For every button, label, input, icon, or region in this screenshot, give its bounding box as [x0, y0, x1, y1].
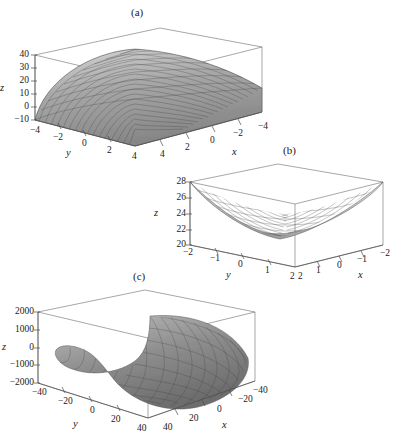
panel-b-xtick-3: −1 — [357, 255, 367, 265]
panel-a-axis-z: z — [0, 83, 4, 94]
panel-c-xtick-3: −20 — [238, 395, 253, 405]
panel-c-xtick-1: 20 — [189, 414, 199, 424]
panel-c-ztick-3: −1000 — [0, 360, 34, 370]
panel-b-xtick-0: 2 — [298, 272, 303, 282]
panel-a-ytick-2: 0 — [82, 139, 87, 149]
panel-c-ytick-1: −20 — [58, 397, 73, 407]
panel-a-ztick-4: 0 — [5, 102, 29, 112]
panel-c-xtick-4: −40 — [253, 386, 268, 396]
panel-b-xtick-4: −2 — [380, 249, 390, 259]
panel-b-ytick-1: −1 — [210, 254, 220, 264]
figure-3d-surface-plots: (a) — [0, 0, 402, 448]
panel-b-ztick-3: 22 — [164, 225, 186, 235]
panel-c-xtick-0: 40 — [163, 423, 173, 433]
panel-c-axis-y: y — [73, 419, 78, 430]
panel-c-ytick-4: 40 — [137, 424, 147, 434]
panel-c-ytick-2: 0 — [90, 406, 95, 416]
panel-a-ztick-5: −10 — [2, 115, 29, 125]
panel-c-axis-x: x — [222, 420, 227, 431]
panel-b-ztick-2: 24 — [164, 209, 186, 219]
panel-c-ztick-4: −2000 — [0, 378, 34, 388]
panel-c-axis-z: z — [2, 342, 6, 353]
panel-b-ytick-0: −2 — [183, 248, 193, 258]
panel-b-xtick-1: 1 — [316, 266, 321, 276]
panel-c-xtick-2: 0 — [217, 405, 222, 415]
panel-c-ztick-0: 2000 — [0, 307, 34, 317]
panel-a-ztick-3: 10 — [5, 89, 29, 99]
panel-c-ytick-0: −40 — [32, 388, 47, 398]
panel-a-axis-y: y — [66, 148, 71, 159]
panel-a-ytick-3: 2 — [107, 146, 112, 156]
panel-a-ztick-2: 20 — [5, 76, 29, 86]
panel-b-xtick-2: 0 — [337, 261, 342, 271]
panel-c: (c) — [0, 268, 285, 448]
panel-a-ztick-1: 30 — [5, 63, 29, 73]
panel-c-ztick-1: 1000 — [0, 325, 34, 335]
panel-c-ytick-3: 20 — [111, 415, 121, 425]
panel-a-ytick-4: 4 — [132, 152, 137, 162]
panel-a-ytick-1: −2 — [53, 133, 63, 143]
panel-b-axis-x: x — [358, 270, 363, 281]
panel-a-xtick-0: 4 — [160, 150, 165, 160]
panel-b-ztick-0: 28 — [164, 177, 186, 187]
panel-a-ztick-0: 40 — [5, 50, 29, 60]
panel-c-graphic — [0, 268, 285, 448]
panel-b-ztick-1: 26 — [164, 193, 186, 203]
panel-b-axis-z: z — [154, 208, 158, 219]
panel-a-ytick-0: −4 — [30, 126, 40, 136]
panel-a-xtick-4: −4 — [258, 122, 268, 132]
panel-b-ytick-4: 2 — [290, 272, 295, 282]
panel-a-xtick-3: −2 — [233, 129, 243, 139]
